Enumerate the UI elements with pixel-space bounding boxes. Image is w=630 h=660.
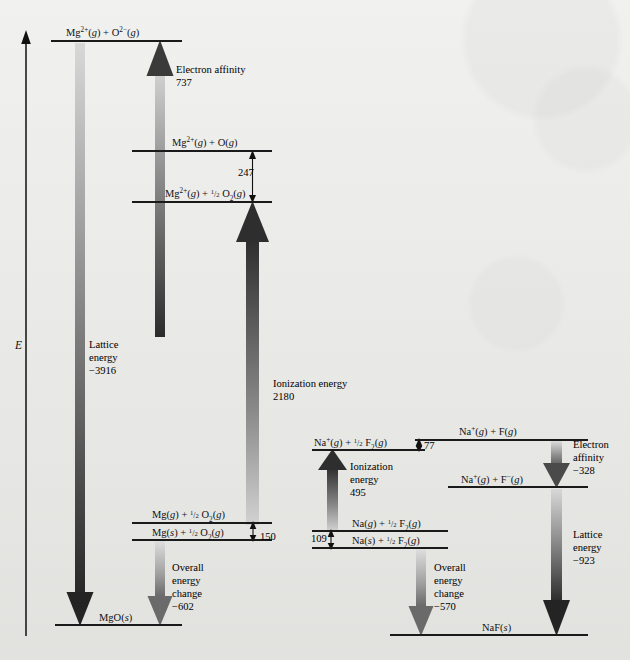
naf-electron-affinity-annotation: Electron affinity −328 xyxy=(573,438,609,477)
mgo-level-label-mg2-o: Mg2+(g) + O(g) xyxy=(172,136,238,149)
mgo-overall-energy-change-annotation: Overall energy change −602 xyxy=(172,561,204,613)
mgo-sublimation-value: 150 xyxy=(260,531,276,542)
born-haber-diagram-figure: E xyxy=(0,0,630,660)
mgo-level-label-mg2-halfo2: Mg2+(g) + 1/2 O2(g) xyxy=(165,187,246,203)
naf-level-label-na-f-atom: Na+(g) + F(g) xyxy=(459,425,517,438)
mgo-lattice-energy-annotation: Lattice energy −3916 xyxy=(89,338,118,377)
naf-lattice-energy-arrow xyxy=(543,489,570,636)
mgo-lattice-energy-arrow xyxy=(67,43,94,626)
energy-axis xyxy=(21,30,31,636)
mgo-level-label-mg-g: Mg(g) + 1/2 O2(g) xyxy=(152,509,225,525)
naf-level-label-naf-s: NaF(s) xyxy=(482,622,512,634)
naf-dissociation-value: 77 xyxy=(424,440,435,451)
naf-ionization-energy-annotation: Ionization energy 495 xyxy=(350,460,393,499)
naf-sublimation-arrow xyxy=(328,529,335,550)
mgo-level-label-mgo-s: MgO(s) xyxy=(99,612,133,624)
mgo-electron-affinity-annotation: Electron affinity 737 xyxy=(176,63,246,89)
naf-sublimation-value: 109 xyxy=(311,533,327,544)
naf-ionization-energy-arrow xyxy=(318,449,347,531)
diagram-canvas: E xyxy=(0,0,630,660)
energy-axis-label: E xyxy=(14,339,22,351)
mgo-ionization-energy-annotation: Ionization energy 2180 xyxy=(273,377,347,403)
naf-electron-affinity-arrow xyxy=(543,441,570,488)
naf-overall-energy-change-arrow xyxy=(409,549,434,636)
naf-lattice-energy-annotation: Lattice energy −923 xyxy=(573,528,602,567)
mgo-ionization-energy-arrow xyxy=(236,201,269,525)
naf-level-label-na-fminus: Na+(g) + F−(g) xyxy=(461,473,523,486)
mgo-dissociation-value: 247 xyxy=(238,167,254,178)
mgo-overall-energy-change-arrow xyxy=(148,541,173,626)
naf-overall-energy-change-annotation: Overall energy change −570 xyxy=(434,561,466,613)
mgo-level-label-mg2-o2minus: Mg2+(g) + O2−(g) xyxy=(66,26,140,39)
